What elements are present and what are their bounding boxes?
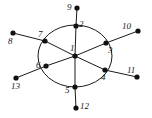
graph-edge	[106, 31, 138, 43]
node-label-3: 3	[108, 46, 113, 55]
graph-node	[73, 105, 78, 110]
graph-canvas	[0, 0, 152, 118]
graph-node	[73, 23, 78, 28]
node-label-11: 11	[127, 66, 135, 75]
node-label-4: 4	[101, 73, 106, 82]
graph-node	[72, 84, 77, 89]
graph-node	[42, 38, 47, 43]
graph-edge	[75, 43, 106, 56]
graph-figure: 12345678910111213	[0, 0, 152, 118]
graph-edge	[75, 56, 105, 70]
graph-edge	[46, 56, 75, 66]
node-label-7: 7	[38, 30, 43, 39]
graph-node	[74, 5, 79, 10]
node-label-2: 2	[79, 20, 84, 29]
graph-edge	[75, 87, 76, 108]
graph-node	[134, 74, 139, 79]
node-label-13: 13	[11, 82, 20, 91]
node-label-12: 12	[80, 102, 89, 111]
graph-node	[135, 28, 140, 33]
node-label-6: 6	[36, 61, 41, 70]
graph-node	[43, 63, 48, 68]
graph-node	[13, 75, 18, 80]
graph-edge	[75, 26, 76, 56]
node-label-5: 5	[65, 86, 70, 95]
graph-edge	[76, 8, 77, 26]
graph-node	[10, 30, 15, 35]
node-label-1: 1	[70, 44, 75, 53]
node-label-10: 10	[122, 22, 131, 31]
node-label-8: 8	[8, 37, 13, 46]
node-label-9: 9	[67, 3, 72, 12]
graph-edge	[16, 66, 46, 78]
graph-node	[72, 53, 77, 58]
